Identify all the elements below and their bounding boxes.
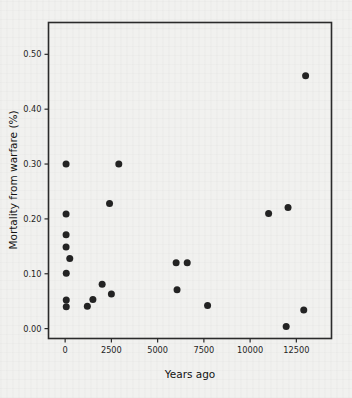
- y-tick-label: 0.50: [23, 49, 41, 59]
- data-point: [63, 303, 70, 310]
- x-tick-label: 5000: [147, 345, 168, 355]
- data-point: [63, 161, 70, 168]
- y-tick-label: 0.20: [23, 214, 41, 224]
- data-point: [204, 302, 211, 309]
- y-tick-label: 0.40: [23, 104, 41, 114]
- data-point: [173, 259, 180, 266]
- y-axis-ticks: 0.000.100.200.300.400.50: [23, 49, 48, 333]
- data-point: [63, 231, 70, 238]
- x-tick-label: 2500: [101, 345, 122, 355]
- data-points: [63, 72, 310, 330]
- data-point: [63, 270, 70, 277]
- data-point: [174, 286, 181, 293]
- data-point: [66, 255, 73, 262]
- x-tick-label: 12500: [283, 345, 309, 355]
- plot-canvas: 0.000.100.200.300.400.50 025005000750010…: [0, 0, 352, 398]
- data-point: [184, 259, 191, 266]
- data-point: [283, 323, 290, 330]
- x-axis-ticks: 02500500075001000012500: [63, 339, 310, 355]
- data-point: [285, 204, 292, 211]
- y-axis-title: Mortality from warfare (%): [7, 110, 19, 249]
- data-point: [108, 291, 115, 298]
- x-tick-label: 10000: [237, 345, 263, 355]
- data-point: [99, 281, 106, 288]
- y-tick-label: 0.30: [23, 159, 41, 169]
- x-axis-title: Years ago: [164, 368, 216, 380]
- data-point: [302, 72, 309, 79]
- data-point: [115, 161, 122, 168]
- y-tick-label: 0.00: [23, 324, 41, 334]
- data-point: [300, 306, 307, 313]
- data-point: [265, 210, 272, 217]
- data-point: [89, 296, 96, 303]
- x-tick-label: 0: [63, 345, 68, 355]
- x-tick-label: 7500: [193, 345, 214, 355]
- data-point: [106, 200, 113, 207]
- data-point: [84, 303, 91, 310]
- data-point: [63, 297, 70, 304]
- data-point: [63, 210, 70, 217]
- y-tick-label: 0.10: [23, 269, 41, 279]
- data-point: [63, 243, 70, 250]
- scatter-plot-figure: 0.000.100.200.300.400.50 025005000750010…: [0, 0, 352, 398]
- plot-frame: [49, 23, 332, 339]
